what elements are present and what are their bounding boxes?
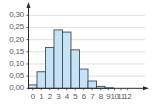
bar-5 (71, 50, 80, 88)
probability-histogram: 0,000,050,100,150,200,250,30 01234567891… (0, 0, 153, 108)
x-tick-label: 12 (122, 93, 132, 101)
y-tick-label: 0,10 (0, 60, 24, 68)
bar-0 (29, 85, 38, 88)
y-tick-label: 0,30 (0, 11, 24, 19)
bar-3 (54, 30, 63, 88)
y-tick-label: 0,05 (0, 72, 24, 80)
bar-7 (88, 81, 97, 88)
y-tick-label: 0,15 (0, 48, 24, 56)
bar-1 (37, 72, 46, 89)
bars (29, 30, 114, 88)
x-axis-arrow-icon (143, 86, 149, 90)
y-axis-arrow-icon (27, 2, 31, 8)
y-tick-label: 0,25 (0, 23, 24, 31)
bar-6 (80, 69, 89, 88)
bar-2 (46, 47, 55, 88)
bar-4 (63, 32, 72, 88)
y-tick-label: 0,00 (0, 84, 24, 92)
y-tick-label: 0,20 (0, 36, 24, 44)
